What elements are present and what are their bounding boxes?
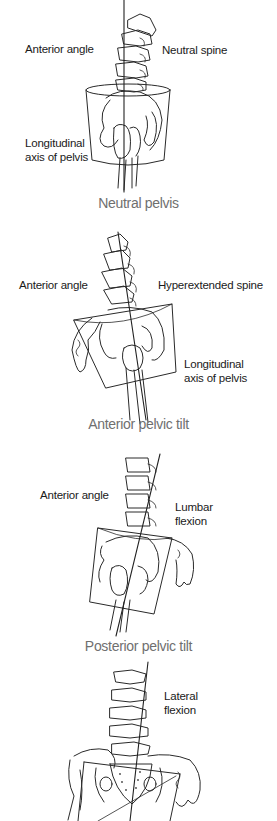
neutral-pelvis-illustration [0,0,277,215]
label-anterior-angle: Anterior angle [19,278,88,292]
panel-anterior-pelvic-tilt: Anterior angle Hyperextended spine Longi… [0,220,277,445]
label-lateral-flexion-2: flexion [164,703,196,717]
label-anterior-angle: Anterior angle [25,42,94,56]
caption-neutral-pelvis: Neutral pelvis [0,195,277,211]
label-lumbar-flexion-1: Lumbar [175,500,213,514]
label-longitudinal-axis-2: axis of pelvis [184,371,247,385]
longitudinal-axis-line [116,454,160,636]
panel-posterior-pelvic-tilt: Anterior angle Lumbar flexion Posterior … [0,450,277,650]
anterior-tilt-illustration [0,220,277,445]
panel-neutral-pelvis: Anterior angle Neutral spine Longitudina… [0,0,277,215]
label-longitudinal-axis-1: Longitudinal [25,136,85,150]
spine-vertebrae [102,234,136,306]
label-anterior-angle: Anterior angle [40,488,109,502]
pelvis-diagonal-line [98,776,176,821]
spine-vertebrae [110,670,150,756]
label-hyperextended-spine: Hyperextended spine [158,278,263,292]
caption-posterior-pelvic-tilt: Posterior pelvic tilt [0,638,277,654]
label-lateral-flexion-1: Lateral [164,689,198,703]
pelvis-cylinder [74,304,176,388]
label-longitudinal-axis-2: axis of pelvis [25,150,88,164]
spine-vertebrae [126,458,156,526]
pelvis-cylinder [90,528,172,614]
label-neutral-spine: Neutral spine [162,43,227,57]
pelvis-cylinder-top [86,84,170,96]
lateral-flexion-illustration [0,660,277,821]
panel-lateral-flexion: Lateral flexion [0,660,277,821]
label-longitudinal-axis-1: Longitudinal [184,357,244,371]
pelvis-box [78,762,180,821]
spine-vertebrae [116,14,156,92]
caption-anterior-pelvic-tilt: Anterior pelvic tilt [0,416,277,432]
label-lumbar-flexion-2: flexion [175,514,207,528]
posterior-tilt-illustration [0,450,277,650]
